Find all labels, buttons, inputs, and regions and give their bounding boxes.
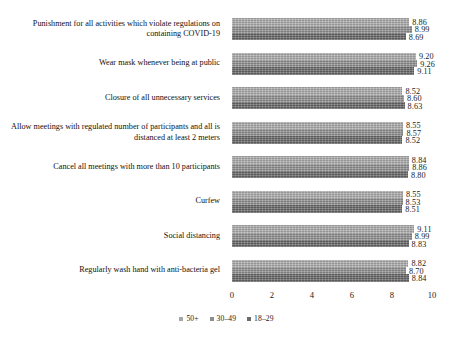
legend-swatch-icon bbox=[210, 317, 214, 321]
bar-18-29 bbox=[232, 136, 402, 143]
bar-row: 8.86 bbox=[232, 164, 432, 171]
bar-row: 9.11 bbox=[232, 67, 432, 74]
bar-group: 8.868.998.69 bbox=[232, 18, 432, 40]
bar-value-label: 8.69 bbox=[409, 32, 424, 41]
chart-legend: 50+30–4918–29 bbox=[0, 314, 453, 323]
bar-row: 9.11 bbox=[232, 225, 432, 232]
bar-group: 8.528.608.63 bbox=[232, 87, 432, 109]
legend-item[interactable]: 50+ bbox=[179, 314, 198, 323]
bar-row: 8.86 bbox=[232, 18, 432, 25]
bar-group: 9.209.269.11 bbox=[232, 53, 432, 75]
bar-30-49 bbox=[232, 129, 403, 136]
bar-30-49 bbox=[232, 164, 409, 171]
bar-group: 8.558.538.51 bbox=[232, 191, 432, 213]
bar-value-label: 8.83 bbox=[412, 239, 427, 248]
bar-30-49 bbox=[232, 26, 412, 33]
bar-value-label: 8.52 bbox=[405, 136, 420, 145]
bar-50- bbox=[232, 53, 416, 60]
bar-30-49 bbox=[232, 95, 404, 102]
x-tick-label: 2 bbox=[270, 290, 274, 300]
bar-18-29 bbox=[232, 67, 414, 74]
bar-30-49 bbox=[232, 60, 417, 67]
bar-row: 9.26 bbox=[232, 60, 432, 67]
bar-row: 8.84 bbox=[232, 156, 432, 163]
x-tick-label: 8 bbox=[390, 290, 394, 300]
bar-18-29 bbox=[232, 240, 409, 247]
category-label: Social distancing bbox=[8, 231, 226, 242]
legend-label: 50+ bbox=[186, 314, 198, 323]
bar-value-label: 8.80 bbox=[411, 170, 426, 179]
bar-row: 8.51 bbox=[232, 205, 432, 212]
bar-30-49 bbox=[232, 267, 406, 274]
bar-row: 8.57 bbox=[232, 129, 432, 136]
x-axis: 0246810 bbox=[232, 288, 432, 306]
category-label: Punishment for all activities which viol… bbox=[8, 19, 226, 40]
bar-row: 8.55 bbox=[232, 191, 432, 198]
bar-group: 8.558.578.52 bbox=[232, 122, 432, 144]
bar-50- bbox=[232, 122, 403, 129]
bar-row: 8.82 bbox=[232, 260, 432, 267]
bar-value-label: 8.84 bbox=[412, 274, 427, 283]
bar-value-label: 8.63 bbox=[408, 101, 423, 110]
category-label: Closure of all unnecessary services bbox=[8, 93, 226, 104]
bar-value-label: 9.11 bbox=[417, 67, 431, 76]
bar-50- bbox=[232, 260, 408, 267]
bar-group: 8.848.868.80 bbox=[232, 156, 432, 178]
plot-area: 8.868.998.699.209.269.118.528.608.638.55… bbox=[232, 12, 432, 288]
x-tick-label: 10 bbox=[428, 290, 437, 300]
category-label: Wear mask whenever being at public bbox=[8, 58, 226, 69]
horizontal-bar-chart: Punishment for all activities which viol… bbox=[0, 0, 453, 341]
bar-row: 8.69 bbox=[232, 33, 432, 40]
bar-row: 8.80 bbox=[232, 171, 432, 178]
bar-50- bbox=[232, 18, 409, 25]
bar-50- bbox=[232, 225, 414, 232]
legend-swatch-icon bbox=[179, 317, 183, 321]
bar-18-29 bbox=[232, 205, 402, 212]
bar-18-29 bbox=[232, 274, 409, 281]
legend-swatch-icon bbox=[247, 317, 251, 321]
bar-50- bbox=[232, 87, 402, 94]
bar-row: 8.70 bbox=[232, 267, 432, 274]
bar-50- bbox=[232, 156, 409, 163]
category-label: Curfew bbox=[8, 196, 226, 207]
bar-18-29 bbox=[232, 171, 408, 178]
x-tick-label: 0 bbox=[230, 290, 234, 300]
bar-row: 8.60 bbox=[232, 95, 432, 102]
bar-group: 8.828.708.84 bbox=[232, 260, 432, 282]
bar-row: 8.99 bbox=[232, 26, 432, 33]
bar-group: 9.118.998.83 bbox=[232, 225, 432, 247]
bar-30-49 bbox=[232, 233, 412, 240]
x-tick-label: 6 bbox=[350, 290, 354, 300]
bar-row: 8.83 bbox=[232, 240, 432, 247]
category-label: Regularly wash hand with anti-bacteria g… bbox=[8, 265, 226, 276]
legend-item[interactable]: 30–49 bbox=[210, 314, 236, 323]
bar-row: 8.55 bbox=[232, 122, 432, 129]
category-label: Allow meetings with regulated number of … bbox=[8, 122, 226, 143]
bar-50- bbox=[232, 191, 403, 198]
bar-row: 8.53 bbox=[232, 198, 432, 205]
bar-18-29 bbox=[232, 33, 406, 40]
x-tick-label: 4 bbox=[310, 290, 314, 300]
bar-row: 8.52 bbox=[232, 87, 432, 94]
bar-value-label: 8.51 bbox=[405, 205, 420, 214]
bar-row: 8.63 bbox=[232, 102, 432, 109]
bar-row: 9.20 bbox=[232, 53, 432, 60]
legend-item[interactable]: 18–29 bbox=[247, 314, 273, 323]
legend-label: 30–49 bbox=[217, 314, 236, 323]
bar-row: 8.99 bbox=[232, 233, 432, 240]
bar-30-49 bbox=[232, 198, 403, 205]
category-label: Cancel all meetings with more than 10 pa… bbox=[8, 162, 226, 173]
bar-row: 8.52 bbox=[232, 136, 432, 143]
legend-label: 18–29 bbox=[254, 314, 273, 323]
bar-18-29 bbox=[232, 102, 405, 109]
bar-row: 8.84 bbox=[232, 274, 432, 281]
